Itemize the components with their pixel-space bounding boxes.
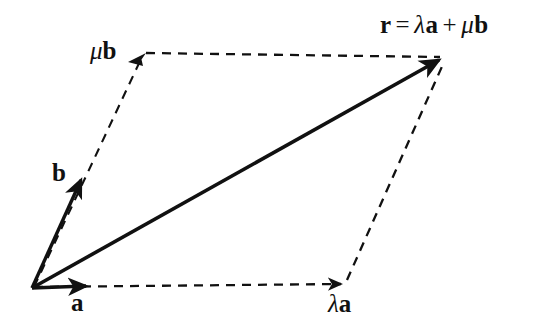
vector-canvas — [0, 0, 538, 329]
label-vector-b: b — [52, 160, 66, 185]
formula-b: b — [474, 11, 488, 38]
label-resultant-formula: r=λa+μb — [380, 12, 489, 37]
formula-plus: + — [443, 11, 458, 38]
vector-a-line — [32, 286, 86, 288]
formula-a: a — [426, 11, 439, 38]
formula-lambda: λ — [414, 11, 425, 38]
mu-b-mu: μ — [90, 37, 103, 64]
formula-mu: μ — [461, 11, 474, 38]
dashed-line-right-edge — [347, 62, 444, 280]
dashed-line-mu-b — [34, 59, 141, 287]
label-lambda-a: λa — [328, 291, 351, 316]
mu-b-corner-arrowhead — [128, 53, 146, 66]
lambda-a-a: a — [339, 290, 352, 317]
vector-a-text: a — [71, 289, 84, 316]
vector-b-line — [32, 180, 81, 288]
vector-b-text: b — [52, 159, 66, 186]
mu-b-b: b — [103, 37, 117, 64]
formula-equals: = — [396, 11, 411, 38]
label-vector-a: a — [71, 290, 84, 315]
vector-diagram: r=λa+μb μb b a λa — [0, 0, 538, 329]
label-mu-b: μb — [90, 38, 116, 63]
lambda-a-lambda: λ — [328, 290, 339, 317]
vector-r-line — [32, 60, 439, 288]
dashed-line-top-edge — [146, 53, 440, 57]
formula-r: r — [380, 11, 392, 38]
